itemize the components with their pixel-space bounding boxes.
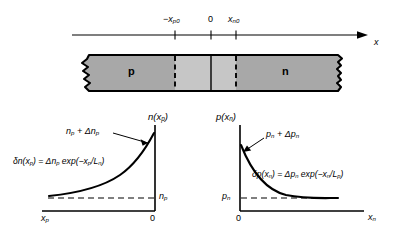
left-graph-y-axis-label: n(xp) [148,112,168,122]
tick-label-xn0: xn0 [228,15,239,24]
depletion-region-n-side [211,56,236,90]
right-graph-x-label-left: 0 [236,214,241,223]
right-graph-annotation-arrowhead [243,145,251,152]
bar-label-n-region: n [282,66,289,77]
figure-canvas [0,0,395,236]
right-graph-y-axis-label: p(xn) [216,112,236,122]
left-graph-baseline-label: np [159,192,167,201]
depletion-region-p-side [175,56,211,90]
tick-label-zero: 0 [208,15,213,24]
position-axis-label-x: x [374,38,379,47]
right-graph-x-label-right: xn [368,213,376,222]
left-graph-equation: δn(xp) = Δnp exp(−xp/Ln) [13,157,104,166]
left-graph-peak-label: np + Δnp [66,127,99,136]
pn-junction-figure: −xp0 0 xn0 x p n n(xp) np + Δnp δn(xp) =… [0,0,395,236]
left-graph-x-label-right: 0 [150,214,155,223]
pn-bar-group [82,55,342,91]
right-graph-peak-label: pn + Δpn [266,130,299,139]
position-axis-group [72,31,368,40]
left-graph-x-label-left: xp [41,214,49,223]
bar-label-p-region: p [128,66,135,77]
tick-label-minus-xp0: −xp0 [163,15,180,24]
right-graph-axes [240,125,364,211]
left-graph-axes [42,125,155,211]
position-axis-arrowhead [357,31,368,39]
right-graph-baseline-label: pn [222,192,230,201]
right-graph-equation: δp(xn) = Δpn exp(−xn/Lp) [252,170,343,179]
